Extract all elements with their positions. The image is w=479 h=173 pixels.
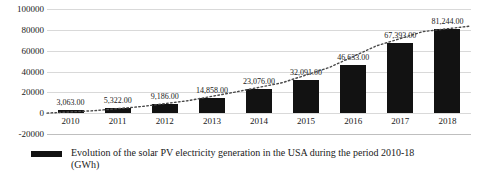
y-tick-label: 0	[0, 109, 44, 118]
bar[interactable]	[199, 98, 225, 113]
x-tick-label: 2016	[330, 112, 377, 130]
bar[interactable]	[293, 80, 319, 113]
x-tick-label: 2012	[141, 112, 188, 130]
x-tick-label: 2013	[188, 112, 235, 130]
y-tick-label: -20000	[0, 130, 44, 139]
y-tick-label: 60000	[0, 46, 44, 55]
y-tick-label: 100000	[0, 5, 44, 14]
bar-value-label: 81,244.00	[431, 18, 463, 26]
y-tick-label: 20000	[0, 88, 44, 97]
x-tick-label: 2015	[283, 112, 330, 130]
legend-label: Evolution of the solar PV electricity ge…	[71, 147, 414, 171]
x-axis: 2010 2011 2012 2013 2014 2015 2016 2017 …	[47, 112, 471, 130]
bar[interactable]	[434, 29, 460, 114]
bar-value-label: 23,076.00	[243, 78, 275, 86]
bar[interactable]	[387, 43, 413, 113]
y-tick-label: 80000	[0, 25, 44, 34]
bar-value-label: 46,633.00	[337, 54, 369, 62]
bar-value-label: 3,063.00	[57, 99, 85, 107]
bar-value-label: 32,091.00	[290, 69, 322, 77]
legend-label-line1: Evolution of the solar PV electricity ge…	[71, 147, 414, 158]
bar-value-label: 14,858.00	[196, 87, 228, 95]
bar-value-label: 9,186.00	[151, 93, 179, 101]
legend-swatch	[31, 151, 62, 157]
bar-value-label: 67,393.00	[384, 32, 416, 40]
bar[interactable]	[340, 65, 366, 114]
x-tick-label: 2011	[94, 112, 141, 130]
legend-label-line2: (GWh)	[71, 159, 414, 171]
x-tick-label: 2017	[377, 112, 424, 130]
x-tick-label: 2018	[424, 112, 471, 130]
x-tick-label: 2014	[235, 112, 282, 130]
chart-legend: Evolution of the solar PV electricity ge…	[31, 147, 471, 171]
y-tick-label: 40000	[0, 67, 44, 76]
bar-value-label: 5,322.00	[104, 97, 132, 105]
bar[interactable]	[246, 89, 272, 113]
bar-chart: 100000 80000 60000 40000 20000 0 -20000 …	[0, 0, 479, 173]
gridline	[47, 134, 471, 135]
x-tick-label: 2010	[47, 112, 94, 130]
